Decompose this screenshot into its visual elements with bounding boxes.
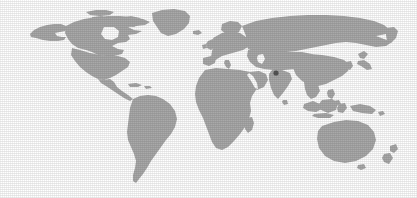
world-locator-map: World map with a single highlighted loca…: [0, 0, 417, 198]
world-map-svg: [0, 0, 417, 198]
location-marker-dot: [273, 70, 278, 75]
